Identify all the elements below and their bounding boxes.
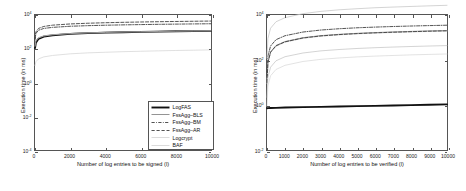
legend-label: Logcrypt — [173, 135, 193, 141]
y-tick-mark — [35, 118, 38, 119]
x-tick-mark — [322, 148, 323, 151]
legend-label: FssAgg–BLS — [173, 112, 203, 118]
legend-label: BAF — [173, 142, 183, 148]
series-line-logcrypt — [35, 50, 211, 66]
y-tick-mark — [35, 84, 38, 85]
series-line-fssagg-bm — [267, 31, 447, 83]
x-tick-label: 10000 — [205, 153, 219, 159]
series-line-logfas — [267, 104, 447, 108]
x-tick-mark — [340, 15, 341, 18]
y-tick-mark — [267, 152, 270, 153]
y-tick-label: 102 — [256, 56, 264, 63]
x-tick-mark — [449, 148, 450, 151]
x-tick-label: 1000 — [279, 153, 290, 159]
legend-line-sample-icon — [151, 127, 170, 134]
series-line-logfas — [35, 31, 211, 48]
legend-item[interactable]: Logcrypt — [151, 134, 211, 142]
x-tick-mark — [71, 15, 72, 18]
curves-verification — [267, 15, 447, 150]
y-tick-mark — [209, 152, 212, 153]
x-tick-mark — [35, 148, 36, 151]
x-tick-mark — [267, 15, 268, 18]
x-axis-title-left: Number of log entries to be signed (l) — [34, 161, 212, 168]
plot-area-verification — [266, 14, 448, 151]
y-tick-mark — [209, 49, 212, 50]
x-tick-label: 5000 — [351, 153, 362, 159]
x-tick-mark — [106, 148, 107, 151]
legend-line-sample-icon — [151, 111, 170, 118]
x-tick-mark — [449, 15, 450, 18]
x-tick-mark — [358, 148, 359, 151]
legend-item[interactable]: FssAgg–BM — [151, 119, 211, 127]
x-tick-mark — [142, 15, 143, 18]
x-tick-label: 2000 — [64, 153, 75, 159]
y-tick-mark — [445, 152, 448, 153]
chart-panel-signing: Execution time (in ms) 10410210010-210-4… — [0, 0, 233, 191]
y-tick-label: 104 — [256, 11, 264, 18]
x-tick-mark — [358, 15, 359, 18]
x-tick-mark — [267, 148, 268, 151]
legend-line-sample-icon — [151, 119, 170, 126]
series-line-fssagg-bls — [267, 25, 447, 77]
series-line-low-light-curve — [267, 54, 447, 106]
x-axis-title-right: Number of log entries to be verified (l) — [266, 161, 448, 168]
legend-item[interactable]: BAF — [151, 141, 211, 149]
legend-item[interactable]: FssAgg–BLS — [151, 111, 211, 119]
y-tick-mark — [445, 15, 448, 16]
x-tick-mark — [142, 148, 143, 151]
x-tick-mark — [285, 15, 286, 18]
y-tick-mark — [209, 84, 212, 85]
y-tick-mark — [267, 61, 270, 62]
figure-container: Execution time (in ms) 10410210010-210-4… — [0, 0, 466, 191]
x-tick-mark — [431, 15, 432, 18]
y-tick-label: 10-2 — [255, 148, 264, 155]
legend-label: LogFAS — [173, 104, 191, 110]
x-tick-mark — [413, 15, 414, 18]
x-tick-mark — [35, 15, 36, 18]
legend-line-sample-icon — [151, 134, 170, 141]
y-tick-label: 100 — [24, 79, 32, 86]
x-tick-mark — [340, 148, 341, 151]
x-tick-mark — [322, 15, 323, 18]
x-tick-mark — [376, 15, 377, 18]
legend-line-sample-icon — [151, 142, 170, 149]
x-tick-label: 7000 — [388, 153, 399, 159]
x-tick-label: 9000 — [424, 153, 435, 159]
x-tick-label: 0 — [265, 153, 268, 159]
y-tick-label: 10-4 — [23, 148, 32, 155]
legend-label: FssAgg–AR — [173, 127, 201, 133]
x-tick-mark — [303, 148, 304, 151]
legend-line-sample-icon — [151, 104, 170, 111]
x-tick-mark — [71, 148, 72, 151]
x-tick-label: 8000 — [171, 153, 182, 159]
y-tick-mark — [267, 106, 270, 107]
y-tick-label: 10-2 — [23, 113, 32, 120]
legend-item[interactable]: LogFAS — [151, 104, 211, 112]
x-tick-mark — [376, 148, 377, 151]
x-tick-label: 8000 — [406, 153, 417, 159]
y-tick-mark — [35, 49, 38, 50]
series-line-fssagg-ar — [267, 31, 447, 84]
y-tick-label: 104 — [24, 11, 32, 18]
x-tick-mark — [431, 148, 432, 151]
x-tick-label: 6000 — [135, 153, 146, 159]
y-tick-mark — [445, 106, 448, 107]
x-tick-label: 6000 — [370, 153, 381, 159]
y-tick-mark — [209, 15, 212, 16]
x-tick-mark — [213, 15, 214, 18]
x-tick-mark — [285, 148, 286, 151]
x-tick-label: 4000 — [333, 153, 344, 159]
x-tick-label: 10000 — [441, 153, 455, 159]
x-tick-mark — [303, 15, 304, 18]
x-tick-label: 4000 — [100, 153, 111, 159]
x-tick-mark — [394, 148, 395, 151]
y-tick-label: 102 — [24, 45, 32, 52]
x-tick-mark — [413, 148, 414, 151]
series-line-baf — [267, 46, 447, 98]
x-tick-mark — [394, 15, 395, 18]
y-tick-mark — [35, 152, 38, 153]
chart-panel-verification: Execution time (in ms) 10410210010-2 010… — [233, 0, 466, 191]
x-tick-mark — [177, 15, 178, 18]
legend-item[interactable]: FssAgg–AR — [151, 126, 211, 134]
legend-label: FssAgg–BM — [173, 119, 201, 125]
